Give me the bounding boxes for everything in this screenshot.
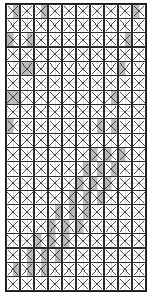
thick-gridlines-layer [6, 4, 146, 291]
pattern-chart [0, 0, 153, 298]
pattern-grid-svg [0, 0, 153, 298]
